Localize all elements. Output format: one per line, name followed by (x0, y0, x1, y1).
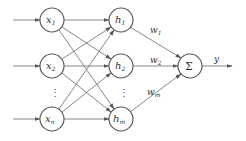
hidden-ellipsis: ⋮ (119, 87, 129, 98)
input-arrows (13, 20, 40, 119)
input-node-xn: xn (40, 107, 64, 131)
node-subscript: 1 (121, 19, 125, 26)
node-subscript: 2 (120, 65, 125, 72)
node-subscript: 2 (51, 65, 56, 72)
node-subscript: m (119, 118, 125, 125)
input-ellipsis: ⋮ (50, 87, 60, 98)
input-node-x1: x1 (40, 8, 64, 32)
node-subscript: n (51, 118, 55, 125)
hidden-node-hm: hm (109, 107, 133, 131)
input-hidden-edges (59, 20, 114, 119)
output-label-y: y (213, 54, 220, 64)
hidden-node-h2: h2 (109, 54, 133, 78)
input-node-x2: x2 (40, 54, 64, 78)
summation-node: Σ (178, 54, 202, 78)
neural-network-diagram: x1 x2 ⋮ xn h1 h2 ⋮ hm Σ w1 w2 wm y (0, 0, 246, 141)
node-subscript: 1 (52, 19, 56, 26)
hidden-output-edges (130, 27, 181, 112)
weight-label-w2: w2 (150, 55, 162, 66)
weight-label-wm: wm (147, 87, 161, 98)
hidden-node-h1: h1 (109, 8, 133, 32)
weight-label-w1: w1 (150, 25, 162, 36)
sigma-symbol: Σ (185, 60, 193, 73)
